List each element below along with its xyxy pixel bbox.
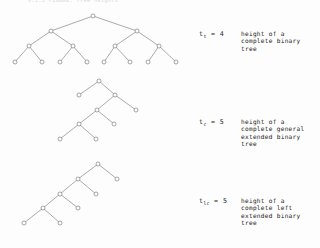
tree-edge [29,31,51,46]
tree-edge [115,46,130,62]
tree-edge [137,31,159,46]
tree-node [58,221,62,225]
tree-node [94,192,98,196]
tree-node [113,93,117,97]
tree-edge [78,164,98,179]
figure-page: 6.2.2 FIGURE: Tree heights tt = 4 height… [0,0,320,248]
tree-label-2-value: 5 [220,118,224,126]
tree-edge [29,46,42,62]
tree-edge [15,46,29,62]
tree-edge [148,46,159,62]
tree-edge [104,46,115,62]
tree-label-2-equals: = [211,118,215,126]
tree-node [71,44,75,48]
tree-node [128,60,132,64]
tree-label-3-equation: tlc = 5 [199,197,227,206]
tree-label-3-value: 5 [223,197,227,205]
tree-node [85,60,89,64]
tree-edge [79,81,99,95]
tree-edge [43,208,60,223]
tree-node [76,206,80,210]
tree-node [115,177,119,181]
tree-edge [97,95,115,110]
tree-node [94,137,98,141]
tree-edge [51,16,93,31]
tree-label-1-subscript: t [203,34,206,39]
tree-edge [115,31,137,46]
tree-node [174,60,178,64]
tree-edge [115,95,136,110]
tree-node [91,14,95,18]
tree-figure-complete-binary-tree [13,14,178,64]
tree-edge [78,179,96,194]
tree-label-2-subscript: c [203,122,206,127]
tree-node [76,177,80,181]
tree-edge [73,46,87,62]
tree-node [49,29,53,33]
tree-node [95,108,99,112]
tree-edge [60,46,73,62]
tree-edge [60,179,78,194]
tree-node [102,60,106,64]
tree-node [157,44,161,48]
tree-node [96,162,100,166]
tree-edge [99,81,115,95]
tree-label-1-equals: = [211,30,215,38]
tree-edge [98,164,117,179]
tree-node [135,29,139,33]
tree-edge [51,31,73,46]
tree-node [77,122,81,126]
tree-edge [97,110,114,124]
tree-node [113,44,117,48]
tree-node [58,60,62,64]
tree-edge [93,16,137,31]
tree-edge [60,194,78,208]
tree-label-2-description: height of a complete general extended bi… [241,118,305,148]
tree-node [41,206,45,210]
tree-label-3-subscript: lc [203,201,209,206]
tree-edge [79,124,96,139]
tree-node [40,60,44,64]
tree-figure-complete-left-extended-binary-tree [22,162,119,225]
tree-node [146,60,150,64]
tree-edge [60,124,79,139]
tree-edge [159,46,176,62]
tree-label-1-value: 4 [220,30,224,38]
tree-node [112,122,116,126]
tree-node [97,79,101,83]
tree-node [13,60,17,64]
tree-label-1-equation: tt = 4 [199,30,224,39]
tree-graphics-group [13,14,178,225]
tree-node [58,137,62,141]
tree-edge [24,208,43,223]
tree-label-3-equals: = [214,197,218,205]
tree-node [58,192,62,196]
tree-edge [79,110,97,124]
tree-node [27,44,31,48]
tree-label-2-equation: tc = 5 [199,118,224,127]
tree-node [77,93,81,97]
tree-label-3-description: height of a complete left extended binar… [241,197,301,227]
tree-label-1-description: height of a complete binary tree [241,30,301,52]
tree-node [22,221,26,225]
tree-figure-complete-general-extended-binary-tree [58,79,138,141]
tree-node [134,108,138,112]
tree-edge [43,194,60,208]
